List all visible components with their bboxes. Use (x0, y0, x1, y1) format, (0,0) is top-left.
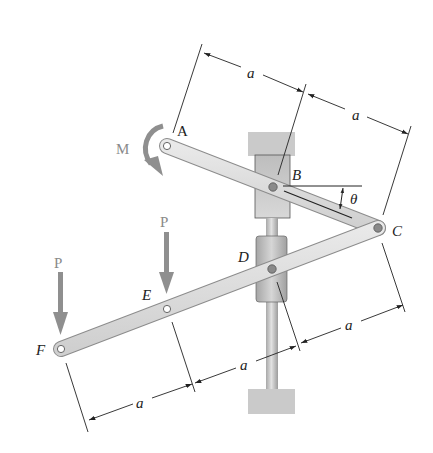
force-arrow-f-icon (53, 272, 68, 335)
label-e: E (141, 287, 151, 303)
dim-ab-label: a (247, 65, 255, 81)
moment-arrow-icon (144, 126, 163, 176)
pin-e (163, 305, 170, 312)
label-a: A (177, 123, 188, 139)
pin-f (57, 345, 64, 352)
mechanism-diagram: M P P A B C D E F θ a a (0, 0, 433, 453)
pin-c (374, 224, 382, 232)
label-d: D (237, 249, 249, 265)
label-moment: M (116, 141, 129, 157)
label-f: F (35, 342, 46, 358)
bottom-support (248, 389, 295, 414)
force-arrow-e-icon (159, 232, 174, 294)
label-force-e: P (160, 214, 168, 230)
pin-d (268, 265, 276, 273)
dim-de-label: a (240, 357, 248, 373)
label-theta: θ (350, 191, 358, 207)
label-force-f: P (54, 255, 62, 271)
label-b: B (292, 167, 301, 183)
label-c: C (392, 223, 403, 239)
pin-b (269, 183, 277, 191)
dim-bc-label: a (352, 107, 360, 123)
link-cdef (61, 228, 378, 349)
dim-ef-label: a (136, 395, 144, 411)
dimension-bottom (66, 243, 405, 432)
dim-cd-label: a (345, 317, 353, 333)
pin-a (163, 142, 170, 149)
